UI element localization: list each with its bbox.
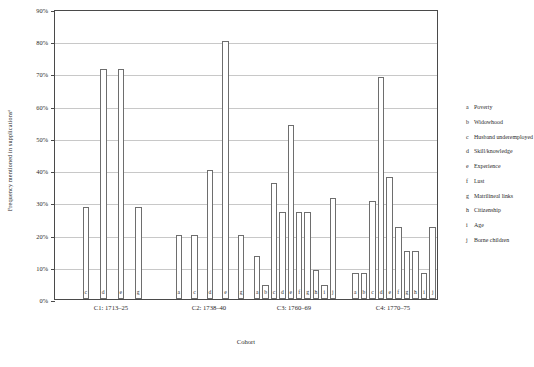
legend-item-key: i [466,222,474,229]
bar-code-label: d [279,290,286,296]
bar-code-label: h [313,290,320,296]
bar-code-label: a [352,290,359,296]
bar-code-label: e [222,290,229,296]
bar-code-label: a [176,290,183,296]
y-axis-tickmark [51,301,55,302]
y-axis-tick-label: 40% [36,168,48,175]
bar-code-label: c [83,290,90,296]
bar-code-label: d [378,290,385,296]
bar-code-label: f [395,290,402,296]
bar-code-label: j [330,290,337,296]
legend-item-label: Lust [474,178,484,185]
y-axis-tick-label: 30% [36,200,48,207]
bar [207,170,214,299]
legend-item-key: h [466,207,474,214]
y-axis-tick-label: 80% [36,39,48,46]
bar-code-label: b [262,290,269,296]
legend-item-label: Skill/knowledge [474,148,513,155]
legend-item-label: Age [474,222,484,229]
legend-item: jBorne children [466,237,534,244]
legend-item-label: Poverty [474,104,492,111]
bar-code-label: c [271,290,278,296]
bar-code-label: b [361,290,368,296]
legend-item: eExperience [466,163,534,170]
legend-item: dSkill/knowledge [466,148,534,155]
bar [222,41,229,299]
legend-item-key: c [466,134,474,141]
legend-item: bWidowhood [466,119,534,126]
bar-code-label: d [207,290,214,296]
x-axis-group-label: C1: 1713–25 [94,304,128,311]
bar-code-label: i [421,290,428,296]
bar-code-label: e [288,290,295,296]
legend-item-label: Matrilineal links [474,193,513,200]
bar [386,177,393,299]
legend-item-key: f [466,178,474,185]
legend-item-key: d [466,148,474,155]
x-axis-group-label: C2: 1738–40 [192,304,226,311]
chart-figure: Frequency mentioned in supplicationsᵃ 0%… [0,0,534,367]
bar [279,212,286,299]
bar [395,227,402,300]
legend-item: cHusband underemployed [466,134,534,141]
legend-item: gMatrilineal links [466,193,534,200]
legend-item-label: Experience [474,163,501,170]
bar-code-label: e [386,290,393,296]
bar-code-label: f [296,290,303,296]
bar-series: cdegacdegabcdefghijabcdefghij [55,11,437,299]
bar-code-label: e [118,290,125,296]
plot-wrapper: 0%10%20%30%40%50%60%70%80%90% cdegacdega… [20,10,440,320]
legend-item: aPoverty [466,104,534,111]
bar-code-label: h [412,290,419,296]
bar-code-label: g [304,290,311,296]
bar-code-label: c [191,290,198,296]
legend-item-label: Widowhood [474,119,503,126]
legend-item-key: e [466,163,474,170]
y-axis-tick-labels: 0%10%20%30%40%50%60%70%80%90% [20,10,52,300]
bar [271,183,278,299]
bar-code-label: c [369,290,376,296]
x-axis-group-label: C4: 1770–75 [376,304,410,311]
bar [83,207,90,299]
bar-code-label: a [254,290,261,296]
bar [288,125,295,299]
bar-code-label: j [429,290,436,296]
legend-item-label: Borne children [474,237,509,244]
legend-item-key: a [466,104,474,111]
y-axis-title-text: Frequency mentioned in supplicationsᵃ [7,109,14,211]
y-axis-tick-label: 90% [36,7,48,14]
legend-item-key: g [466,193,474,200]
x-axis-title: Cohort [54,338,438,345]
plot-area: cdegacdegabcdefghijabcdefghij [54,10,438,300]
y-axis-tick-label: 50% [36,135,48,142]
bar [429,227,436,300]
legend-item-key: j [466,237,474,244]
bar [100,69,107,299]
x-axis-group-label: C3: 1760–69 [277,304,311,311]
legend-item-label: Citizenship [474,207,501,214]
legend-item-key: b [466,119,474,126]
legend-item: iAge [466,222,534,229]
bar [135,207,142,299]
bar [378,77,385,299]
bar-code-label: i [321,290,328,296]
y-axis-tick-label: 0% [39,297,48,304]
y-axis-title: Frequency mentioned in supplicationsᵃ [2,0,18,320]
bar-code-label: d [100,290,107,296]
bar-code-label: g [404,290,411,296]
bar [296,212,303,299]
y-axis-tick-label: 10% [36,264,48,271]
y-axis-tick-label: 60% [36,103,48,110]
legend-item: hCitizenship [466,207,534,214]
y-axis-tick-label: 70% [36,71,48,78]
bar [330,198,337,300]
legend-item: fLust [466,178,534,185]
chart-legend: aPovertybWidowhoodcHusband underemployed… [466,104,534,252]
bar-code-label: g [135,290,142,296]
bar-code-label: g [238,290,245,296]
bar [369,201,376,299]
legend-item-label: Husband underemployed [474,134,533,141]
bar [304,212,311,299]
bar [118,69,125,299]
y-axis-tick-label: 20% [36,232,48,239]
